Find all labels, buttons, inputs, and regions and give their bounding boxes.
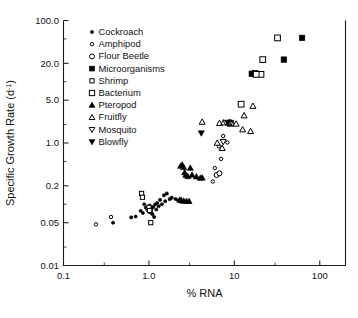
x-tick-label: 10 xyxy=(229,270,240,281)
data-point xyxy=(281,57,286,62)
data-point xyxy=(198,131,204,136)
legend-item-fruitfly: Fruitfly xyxy=(89,111,127,122)
y-tick-label: 5.0 xyxy=(46,94,59,105)
legend-item-microorganisms: Microorganisms xyxy=(90,63,165,74)
data-point xyxy=(241,113,247,118)
data-point xyxy=(189,172,195,177)
data-point xyxy=(213,166,216,169)
y-tick: 0.2 xyxy=(46,180,69,191)
data-point xyxy=(211,180,214,183)
data-point xyxy=(250,103,256,108)
x-tick-label: 100 xyxy=(312,270,328,281)
legend-label: Blowfly xyxy=(99,136,129,147)
data-point xyxy=(260,57,266,63)
y-tick: 20.0 xyxy=(41,58,69,69)
legend-marker xyxy=(90,42,93,45)
data-point xyxy=(143,203,146,206)
data-point xyxy=(153,215,156,218)
x-tick: 1.0 xyxy=(142,261,155,281)
data-point xyxy=(130,216,133,219)
axes: 0.010.050.21.05.020.0100.00.11.010100 xyxy=(35,15,345,281)
data-point xyxy=(164,200,167,203)
data-point xyxy=(148,208,152,212)
data-point xyxy=(199,119,205,124)
data-point xyxy=(94,223,97,226)
data-point xyxy=(221,134,224,137)
y-axis-title: Specific Growth Rate (d-1) xyxy=(4,80,16,206)
data-point xyxy=(156,201,159,204)
data-point xyxy=(160,203,163,206)
y-tick-label: 0.2 xyxy=(46,180,59,191)
legend-marker xyxy=(89,127,95,132)
legend-marker xyxy=(89,90,94,95)
data-point xyxy=(217,171,222,176)
scatter-plot: 0.010.050.21.05.020.0100.00.11.010100 Co… xyxy=(0,0,358,318)
legend-marker xyxy=(89,140,95,145)
legend-label: Bacterium xyxy=(99,87,141,98)
data-point xyxy=(170,196,173,199)
legend-label: Cockroach xyxy=(99,26,144,37)
legend-item-bacterium: Bacterium xyxy=(89,87,141,98)
legend: CockroachAmphipodFlour BeetleMicroorgani… xyxy=(89,26,165,147)
y-tick: 1.0 xyxy=(46,137,69,148)
data-point xyxy=(141,211,144,214)
x-tick: 100 xyxy=(312,261,328,281)
legend-label: Amphipod xyxy=(99,38,141,49)
legend-marker xyxy=(89,102,95,107)
data-point xyxy=(253,72,259,78)
data-point xyxy=(187,165,193,170)
series-bacterium xyxy=(228,35,281,126)
svg-text:Specific Growth Rate (d-1): Specific Growth Rate (d-1) xyxy=(4,80,16,206)
data-point xyxy=(134,215,137,218)
legend-marker xyxy=(90,79,94,83)
legend-marker xyxy=(89,114,95,119)
series-amphipod xyxy=(94,134,229,226)
data-point xyxy=(240,127,246,132)
y-tick-label: 20.0 xyxy=(41,58,60,69)
data-point xyxy=(165,192,168,195)
data-point xyxy=(299,35,304,40)
y-tick: 0.05 xyxy=(41,217,69,228)
legend-marker xyxy=(90,66,95,71)
data-point xyxy=(226,141,229,144)
x-tick-label: 0.1 xyxy=(57,270,70,281)
legend-label: Pteropod xyxy=(99,99,137,110)
data-point xyxy=(162,194,165,197)
data-point xyxy=(140,195,144,199)
chart-figure: 0.010.050.21.05.020.0100.00.11.010100 Co… xyxy=(0,0,358,318)
data-point xyxy=(109,215,112,218)
series-pteropod xyxy=(177,162,205,204)
legend-label: Mosquito xyxy=(99,124,137,135)
data-point xyxy=(233,121,239,126)
data-point xyxy=(248,128,254,133)
legend-label: Microorganisms xyxy=(99,63,165,74)
y-tick: 5.0 xyxy=(46,94,69,105)
y-tick-label: 100.0 xyxy=(35,15,59,26)
data-point xyxy=(159,198,162,201)
x-tick: 10 xyxy=(229,261,240,281)
data-point xyxy=(111,221,114,224)
legend-item-blowfly: Blowfly xyxy=(89,136,128,147)
y-tick-label: 1.0 xyxy=(46,137,59,148)
legend-item-cockroach: Cockroach xyxy=(90,26,143,37)
legend-label: Flour Beetle xyxy=(99,50,150,61)
legend-marker xyxy=(90,54,95,59)
y-tick-label: 0.05 xyxy=(41,217,60,228)
legend-item-flour-beetle: Flour Beetle xyxy=(90,50,150,61)
data-point xyxy=(155,208,158,211)
legend-item-amphipod: Amphipod xyxy=(90,38,140,49)
data-point xyxy=(149,221,153,225)
data-point xyxy=(238,101,244,107)
data-point xyxy=(157,205,160,208)
series-microorganisms xyxy=(249,35,305,76)
legend-item-mosquito: Mosquito xyxy=(89,124,136,135)
legend-marker xyxy=(90,30,93,33)
legend-item-shrimp: Shrimp xyxy=(90,75,128,86)
x-tick-label: 1.0 xyxy=(142,270,155,281)
data-point xyxy=(214,140,220,145)
legend-label: Shrimp xyxy=(99,75,129,86)
data-point xyxy=(219,157,222,160)
x-axis-title: % RNA xyxy=(186,287,223,299)
legend-item-pteropod: Pteropod xyxy=(89,99,136,110)
data-point xyxy=(275,35,281,41)
